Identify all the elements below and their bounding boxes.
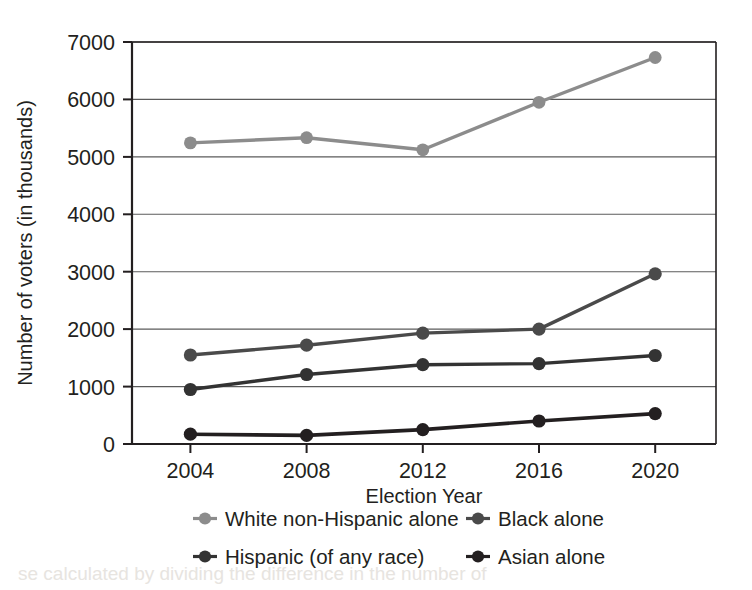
data-point-white-2008	[300, 131, 313, 144]
data-point-asian-2008	[300, 429, 313, 442]
x-tick-label-2008: 2008	[283, 459, 331, 483]
legend-marker-black-alone	[466, 512, 490, 524]
x-tick-label-2012: 2012	[399, 459, 447, 483]
chart-legend: White non-Hispanic alone Black alone His…	[193, 507, 605, 568]
y-tick-label-7000: 7000	[67, 31, 115, 55]
data-point-white-2012	[416, 143, 429, 156]
x-tick-label-2020: 2020	[631, 459, 679, 483]
y-tick-label-0: 0	[103, 433, 115, 457]
data-point-white-2016	[533, 96, 546, 109]
legend-marker-hispanic-of-any-race	[193, 550, 217, 562]
y-tick-marks	[123, 42, 132, 444]
y-tick-label-3000: 3000	[67, 261, 115, 285]
legend-item-white-non-hispanic-alone[interactable]: White non-Hispanic alone	[193, 507, 459, 530]
legend-marker-asian-alone	[466, 550, 490, 562]
legend-label-black-alone: Black alone	[498, 507, 604, 530]
data-point-black-2008	[300, 339, 313, 352]
line-chart-figure: 7000 6000 5000 4000 3000 2000 1000 0 200…	[0, 0, 752, 590]
data-point-asian-2016	[532, 414, 545, 427]
y-tick-label-1000: 1000	[67, 376, 115, 400]
x-tick-label-2004: 2004	[166, 459, 214, 483]
chart-canvas: 7000 6000 5000 4000 3000 2000 1000 0 200…	[0, 0, 752, 590]
scan-bleed-through-text: se calculated by dividing the difference…	[18, 563, 487, 584]
y-tick-label-6000: 6000	[67, 88, 115, 112]
x-tick-labels: 2004 2008 2012 2016 2020	[166, 459, 679, 483]
data-point-black-2020	[649, 267, 662, 280]
legend-marker-white-non-hispanic-alone	[193, 512, 217, 524]
y-tick-label-4000: 4000	[67, 203, 115, 227]
data-point-black-2012	[416, 327, 429, 340]
x-axis-title: Election Year	[366, 485, 483, 507]
data-point-hispanic-2012	[416, 358, 429, 371]
data-point-asian-2012	[416, 423, 429, 436]
y-tick-labels: 7000 6000 5000 4000 3000 2000 1000 0	[67, 31, 115, 457]
data-point-hispanic-2004	[184, 383, 197, 396]
legend-label-asian-alone: Asian alone	[498, 545, 605, 568]
legend-label-white-non-hispanic-alone: White non-Hispanic alone	[225, 507, 459, 530]
data-point-hispanic-2016	[532, 357, 545, 370]
y-tick-label-5000: 5000	[67, 146, 115, 170]
y-tick-label-2000: 2000	[67, 318, 115, 342]
data-point-hispanic-2020	[649, 349, 662, 362]
data-point-asian-2020	[649, 407, 662, 420]
legend-item-black-alone[interactable]: Black alone	[466, 507, 604, 530]
y-axis-title: Number of voters (in thousands)	[14, 100, 36, 386]
x-tick-label-2016: 2016	[515, 459, 563, 483]
plot-area-background	[132, 42, 716, 444]
data-point-black-2004	[184, 348, 197, 361]
data-point-black-2016	[532, 323, 545, 336]
data-point-asian-2004	[184, 428, 197, 441]
data-point-white-2020	[649, 51, 662, 64]
data-point-white-2004	[184, 137, 197, 150]
data-point-hispanic-2008	[300, 368, 313, 381]
x-tick-marks	[190, 444, 655, 453]
legend-item-asian-alone[interactable]: Asian alone	[466, 545, 605, 568]
